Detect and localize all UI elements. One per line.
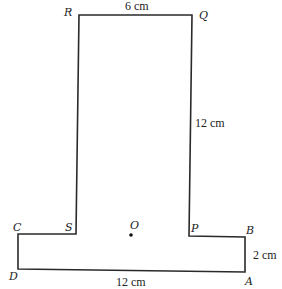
vertex-label-a: A — [244, 275, 253, 288]
center-label-o: O — [130, 219, 139, 232]
vertex-label-c: C — [13, 221, 22, 234]
vertex-label-d: D — [8, 270, 18, 283]
dimension-right-tall: 12 cm — [195, 116, 225, 130]
vertex-label-p: P — [190, 222, 199, 235]
center-point-o — [129, 233, 133, 237]
vertex-label-q: Q — [199, 9, 208, 22]
vertex-label-r: R — [63, 6, 72, 19]
dimension-bottom: 12 cm — [116, 275, 146, 289]
t-shape-diagram: R Q C S P B A D O 6 cm 12 cm 2 cm 12 cm — [0, 0, 282, 289]
dimension-right-short: 2 cm — [253, 248, 277, 262]
vertex-label-s: S — [65, 221, 73, 234]
vertex-label-b: B — [245, 224, 254, 237]
dimension-top: 6 cm — [125, 0, 149, 13]
